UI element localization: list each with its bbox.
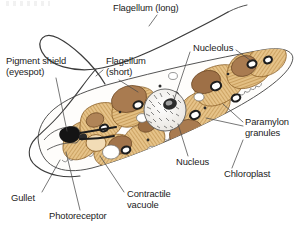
label-flagellum-short: Flagellum [106, 56, 146, 67]
label-chloroplast: Chloroplast [224, 169, 270, 180]
nucleus [144, 89, 186, 131]
label-photoreceptor: Photoreceptor [49, 211, 107, 222]
label-pigment-shield: Pigment shield [6, 56, 66, 67]
label-contractile-vacuole: vacuole [127, 200, 159, 211]
label-paramylon-granules: granules [245, 128, 280, 139]
label-paramylon: Paramylon [245, 117, 289, 128]
euglena-figure: Flagellum (long) Pigment shield (eyespot… [0, 0, 302, 231]
label-pigment-shield-eyespot: (eyespot) [6, 67, 44, 78]
label-nucleolus: Nucleolus [193, 43, 233, 54]
label-nucleus: Nucleus [176, 157, 209, 168]
label-contractile: Contractile [127, 189, 171, 200]
leader-chloroplast [232, 140, 243, 168]
flagellum-long-tip [228, 5, 247, 12]
label-flagellum-short-paren: (short) [106, 67, 132, 78]
leader-paramylon-b [206, 118, 243, 126]
leader-flagellum-long [149, 15, 157, 26]
label-flagellum-long: Flagellum (long) [113, 3, 179, 14]
label-gullet: Gullet [11, 193, 35, 204]
